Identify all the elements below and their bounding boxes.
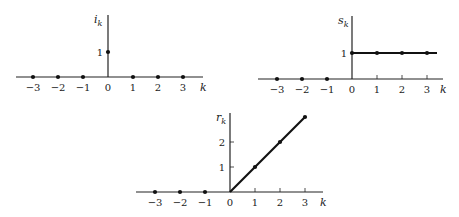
x-tick-label: 0: [105, 82, 111, 93]
x-tick-label: −2: [51, 82, 66, 93]
x-tick-label: 0: [227, 197, 233, 208]
x-tick-label: 3: [424, 84, 430, 95]
x-tick-label: 0: [349, 84, 355, 95]
data-point: [300, 77, 304, 81]
data-point: [178, 190, 182, 194]
data-point: [275, 77, 279, 81]
data-point: [181, 75, 185, 79]
x-tick-label: −2: [295, 84, 310, 95]
x-tick-label: 3: [180, 82, 186, 93]
data-point: [350, 51, 354, 55]
x-tick-label: −1: [76, 82, 91, 93]
data-point: [325, 77, 329, 81]
ramp-line: [230, 117, 305, 192]
data-point: [31, 75, 35, 79]
impulse-plot: −3−2−10123kik1: [16, 13, 207, 94]
y-axis-label: ik: [94, 13, 103, 28]
ramp-plot: −3−2−10123krk12: [136, 111, 327, 209]
data-point: [400, 51, 404, 55]
x-tick-label: −3: [270, 84, 285, 95]
data-point: [425, 51, 429, 55]
data-point: [106, 50, 110, 54]
x-tick-label: −1: [198, 197, 213, 208]
x-tick-label: −3: [26, 82, 41, 93]
y-axis-label: rk: [216, 111, 226, 126]
data-point: [253, 165, 257, 169]
data-point: [56, 75, 60, 79]
y-tick-label: 1: [97, 47, 103, 58]
data-point: [153, 190, 157, 194]
data-point: [203, 190, 207, 194]
x-tick-label: 1: [252, 197, 258, 208]
x-tick-label: 2: [155, 82, 161, 93]
x-tick-label: −1: [320, 84, 335, 95]
x-axis-label: k: [320, 196, 327, 209]
x-tick-label: 1: [130, 82, 136, 93]
data-point: [131, 75, 135, 79]
data-point: [81, 75, 85, 79]
x-tick-label: 2: [277, 197, 283, 208]
x-tick-label: 3: [302, 197, 308, 208]
y-tick-label: 2: [219, 137, 225, 148]
x-tick-label: 2: [399, 84, 405, 95]
x-tick-label: 1: [374, 84, 380, 95]
data-point: [278, 140, 282, 144]
data-point: [156, 75, 160, 79]
x-axis-label: k: [200, 81, 207, 94]
data-point: [375, 51, 379, 55]
x-tick-label: −2: [173, 197, 188, 208]
step-plot: −3−2−10123ksk1: [258, 14, 447, 96]
y-tick-label: 1: [341, 48, 347, 59]
data-point: [303, 115, 307, 119]
y-tick-label: 1: [219, 162, 225, 173]
signal-plots-figure: −3−2−10123kik1 −3−2−10123ksk1 −3−2−10123…: [0, 0, 459, 217]
y-axis-label: sk: [338, 14, 349, 29]
x-tick-label: −3: [148, 197, 163, 208]
x-axis-label: k: [440, 83, 447, 96]
